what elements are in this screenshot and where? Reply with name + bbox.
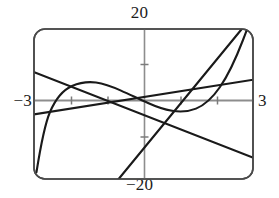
plot-canvas (0, 0, 279, 198)
viewport-frame (34, 29, 253, 179)
graph-figure: 20 −20 −3 3 (0, 0, 279, 198)
